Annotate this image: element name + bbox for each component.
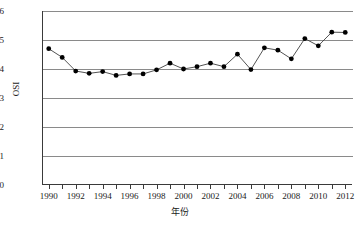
x-axis-title: 年份 — [0, 205, 360, 218]
x-axis-tick — [332, 185, 333, 189]
data-point — [235, 52, 240, 57]
data-point — [262, 45, 267, 50]
x-axis-tick — [49, 185, 50, 189]
x-axis-tick — [157, 185, 158, 189]
data-point — [222, 64, 227, 69]
y-axis-title-text: OSI — [11, 82, 21, 97]
x-axis-tick — [103, 185, 104, 189]
x-axis-tick — [291, 185, 292, 189]
x-axis-tick — [76, 185, 77, 189]
data-point — [168, 61, 173, 66]
data-point — [289, 56, 294, 61]
x-axis-tick — [197, 185, 198, 189]
data-point — [141, 72, 146, 77]
data-point — [154, 67, 159, 72]
data-point — [275, 48, 280, 53]
data-point — [329, 30, 334, 35]
y-axis-tick-label: 0.03 — [0, 94, 4, 103]
x-axis-tick — [130, 185, 131, 189]
x-axis-tick — [116, 185, 117, 189]
y-axis-tick-label: 0.06 — [0, 7, 4, 16]
data-point — [249, 67, 254, 72]
x-axis-tick — [305, 185, 306, 189]
data-point — [100, 69, 105, 74]
y-axis-tick-label: 0.04 — [0, 65, 4, 74]
x-axis-tick — [318, 185, 319, 189]
x-axis-tick — [237, 185, 238, 189]
data-point — [195, 64, 200, 69]
x-axis-tick — [62, 185, 63, 189]
data-point — [208, 61, 213, 66]
x-axis-tick — [143, 185, 144, 189]
series-markers-osi — [46, 30, 347, 78]
data-point — [73, 69, 78, 74]
y-axis-tick-label: 0 — [0, 181, 4, 190]
x-axis-tick — [184, 185, 185, 189]
y-axis-tick-label: 0.01 — [0, 152, 4, 161]
x-axis-tick-label: 2012 — [327, 191, 360, 201]
x-axis-tick — [89, 185, 90, 189]
data-point — [87, 71, 92, 76]
data-point — [343, 30, 348, 35]
data-point — [127, 72, 132, 77]
chart-container: OSI 00.010.020.030.040.050.06 1990199219… — [0, 0, 360, 227]
data-point — [46, 46, 51, 51]
data-point — [316, 43, 321, 48]
x-axis-tick — [278, 185, 279, 189]
x-axis-tick — [345, 185, 346, 189]
x-axis-tick — [170, 185, 171, 189]
y-axis-title: OSI — [0, 78, 36, 96]
data-point — [302, 36, 307, 41]
y-axis-tick-label: 0.02 — [0, 123, 4, 132]
x-axis-tick — [224, 185, 225, 189]
x-axis-tick — [264, 185, 265, 189]
data-point — [60, 55, 65, 60]
data-series-layer — [42, 11, 352, 185]
data-point — [181, 67, 186, 72]
x-axis-tick — [210, 185, 211, 189]
data-point — [114, 73, 119, 78]
y-axis-tick-label: 0.05 — [0, 36, 4, 45]
x-axis-tick — [251, 185, 252, 189]
